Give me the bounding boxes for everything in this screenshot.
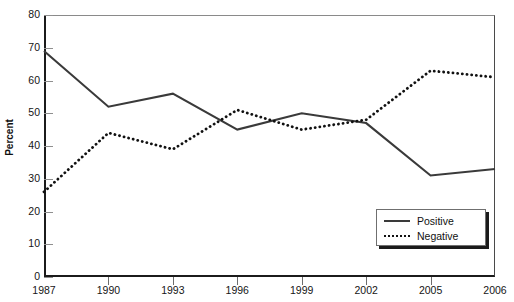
legend-label-negative: Negative xyxy=(417,231,458,242)
y-axis-tick-label: 10 xyxy=(14,238,40,249)
y-axis-tick-label: 70 xyxy=(14,42,40,53)
y-axis-tick xyxy=(44,277,53,278)
y-axis-tick xyxy=(44,81,53,82)
x-axis-tick-label: 1990 xyxy=(85,285,131,296)
chart-legend: Positive Negative xyxy=(376,209,486,246)
x-axis-tick-label: 2005 xyxy=(408,285,454,296)
line-chart: Percent 01020304050607080 19871990199319… xyxy=(0,0,514,302)
legend-item-positive: Positive xyxy=(384,214,485,228)
x-axis-tick-label: 2002 xyxy=(343,285,389,296)
legend-item-negative: Negative xyxy=(384,229,485,243)
legend-swatch-dotted-line-icon xyxy=(384,231,410,241)
y-axis-tick xyxy=(44,146,53,147)
y-axis-tick-label: 40 xyxy=(14,140,40,151)
legend-swatch-solid-line-icon xyxy=(384,216,410,226)
x-axis-tick-label: 1993 xyxy=(150,285,196,296)
x-axis-tick-label: 1996 xyxy=(214,285,260,296)
y-axis-tick xyxy=(44,15,53,16)
x-axis-tick-label: 1999 xyxy=(279,285,325,296)
y-axis-tick-label: 0 xyxy=(14,271,40,282)
y-axis-tick xyxy=(44,212,53,213)
y-axis-tick-label: 80 xyxy=(14,9,40,20)
y-axis-tick-label: 60 xyxy=(14,75,40,86)
y-axis-tick xyxy=(44,48,53,49)
y-axis-tick xyxy=(44,113,53,114)
y-axis-tick-label: 20 xyxy=(14,206,40,217)
y-axis-tick xyxy=(44,244,53,245)
y-axis-tick xyxy=(44,179,53,180)
y-axis-tick-label: 50 xyxy=(14,107,40,118)
y-axis-tick-label: 30 xyxy=(14,173,40,184)
x-axis-tick-label: 1987 xyxy=(21,285,67,296)
x-axis-tick-label: 2006 xyxy=(472,285,514,296)
legend-label-positive: Positive xyxy=(417,216,454,227)
